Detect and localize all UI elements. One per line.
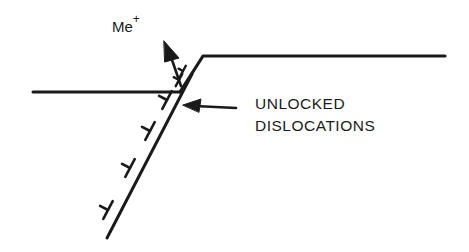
dislocation-symbol — [117, 155, 134, 177]
slip-plane-line — [107, 74, 192, 238]
callout-label: UNLOCKED DISLOCATIONS — [255, 93, 375, 137]
callout-arrow-head-icon — [183, 99, 201, 112]
diagram-canvas — [0, 0, 469, 252]
callout-line-2: DISLOCATIONS — [255, 115, 375, 137]
ion-charge: + — [133, 12, 140, 26]
dislocation-symbol — [137, 118, 154, 140]
dislocation-symbol — [154, 87, 171, 109]
ion-symbol: Me — [112, 18, 133, 35]
ion-arrow-shaft — [171, 57, 181, 86]
step-riser-and-top-surface — [180, 56, 445, 92]
ion-arrow-head-icon — [164, 41, 179, 62]
callout-line-1: UNLOCKED — [255, 93, 375, 115]
ion-label: Me+ — [112, 15, 140, 35]
dislocation-symbol — [95, 197, 112, 219]
callout-arrow-shaft — [195, 106, 236, 108]
